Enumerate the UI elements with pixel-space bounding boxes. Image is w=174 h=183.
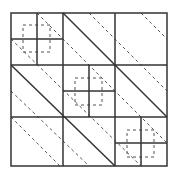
dashed-diagonal: [89, 13, 167, 91]
dashed-diagonal: [11, 117, 60, 166]
dashed-diagonal: [11, 39, 141, 166]
dashed-diagonal: [141, 13, 167, 39]
tiling-diagram: [0, 0, 174, 183]
